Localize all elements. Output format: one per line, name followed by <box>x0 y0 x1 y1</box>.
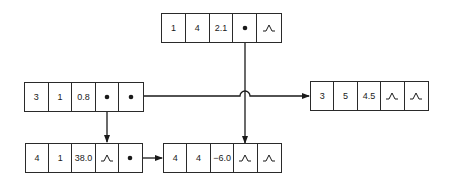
node-bottom-mid: 44−6.0 <box>163 143 282 173</box>
pointer-dot-icon <box>119 144 142 172</box>
null-pointer-icon <box>96 144 119 172</box>
null-pointer-icon <box>405 82 428 110</box>
field-value: 4 <box>186 14 210 42</box>
pointer-dot-icon <box>119 83 143 111</box>
field-value: 1 <box>49 83 73 111</box>
field-value: 1 <box>49 144 72 172</box>
field-value: 3 <box>311 82 334 110</box>
field-value: 3 <box>25 83 49 111</box>
field-value: 4 <box>26 144 49 172</box>
field-value: 2.1 <box>210 14 234 42</box>
field-value: 5 <box>334 82 357 110</box>
null-pointer-icon <box>258 144 281 172</box>
arrow-left-to-right <box>131 91 309 96</box>
field-value: 1 <box>162 14 186 42</box>
pointer-dot-icon <box>96 83 120 111</box>
node-bottom-left: 4138.0 <box>25 143 143 173</box>
field-value: 4 <box>164 144 187 172</box>
field-value: 0.8 <box>72 83 96 111</box>
field-value: −6.0 <box>211 144 234 172</box>
field-value: 38.0 <box>72 144 95 172</box>
null-pointer-icon <box>234 144 257 172</box>
node-top: 142.1 <box>161 13 282 43</box>
null-pointer-icon <box>381 82 404 110</box>
field-value: 4.5 <box>358 82 381 110</box>
node-right: 354.5 <box>310 81 429 111</box>
pointer-dot-icon <box>233 14 257 42</box>
null-pointer-icon <box>257 14 281 42</box>
field-value: 4 <box>187 144 210 172</box>
node-left: 310.8 <box>24 82 144 112</box>
